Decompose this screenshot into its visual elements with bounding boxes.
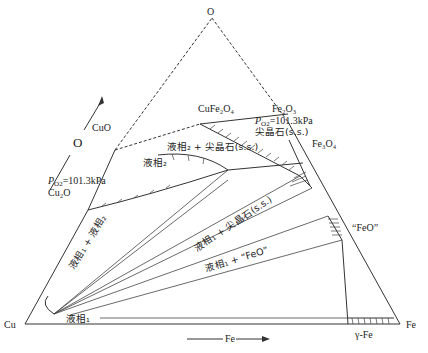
cuo-label: CuO — [92, 122, 111, 133]
fe2o3-label: Fe₂O₃ — [272, 103, 296, 114]
cu2o-label: Cu₂O — [48, 187, 70, 198]
tie-liq-feo-b — [70, 240, 342, 315]
gamma-fe-hatching — [352, 318, 389, 324]
vertex-cu-label: Cu — [4, 319, 16, 330]
liquid-miscibility-curve — [45, 296, 54, 314]
liquid1-tie-lines — [45, 170, 394, 324]
liquid2-spinel-label: 液相₂ + 尖晶石(s.s.) — [167, 141, 258, 152]
vertex-fe-label: Fe — [406, 319, 417, 330]
o-axis-label: O — [73, 135, 82, 150]
liquid2-label: 液相₂ — [143, 157, 167, 168]
arrow-head-icon — [98, 96, 104, 106]
feo-gamma-boundary — [342, 240, 348, 324]
fe-axis-arrow: Fe — [187, 333, 270, 344]
cu-fe-o-ternary-diagram: O Fe O Cu Fe CuO Cu₂O CuFe₂O₄ Fe₂O₃ Fe₃O… — [0, 0, 428, 353]
gamma-fe-label: γ-Fe — [354, 329, 373, 340]
liquid1-liquid2-label: 液相₁ + 液相₂ — [66, 213, 108, 271]
liquid2-spinel-tie — [228, 163, 303, 170]
cu-o-edge-upper-dashed — [115, 18, 212, 150]
triangle-frame — [25, 18, 400, 324]
arrow-head-icon — [262, 336, 270, 342]
fe3o4-label: Fe₃O₄ — [312, 138, 337, 149]
feo-hatching — [328, 219, 342, 235]
cu-o-edge-lower — [25, 210, 88, 324]
fe-axis-label: Fe — [225, 333, 236, 344]
vertex-o-label: O — [207, 6, 214, 17]
liquid1-label: 液相₁ — [66, 313, 90, 324]
left-pressure-label: PO2=101.3kPa — [47, 175, 106, 188]
liquid2-upper-boundary — [158, 154, 228, 170]
feo-label: “FeO” — [352, 222, 378, 233]
cufe2o4-label: CuFe₂O₄ — [198, 103, 234, 114]
o-fe-edge-lower — [288, 122, 400, 324]
feo-region-left — [328, 216, 342, 240]
cu2o-liquid2-boundary — [88, 170, 228, 210]
spinel-ss-label: 尖晶石(s.s.) — [255, 126, 308, 137]
